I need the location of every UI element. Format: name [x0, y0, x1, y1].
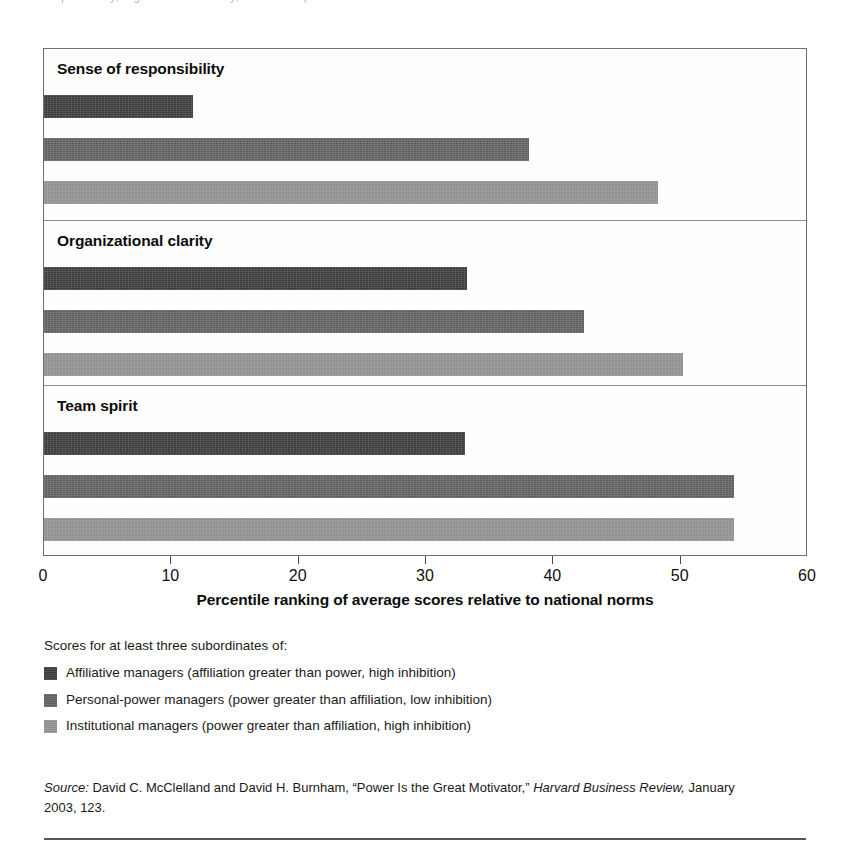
clipped-top-text-line: responsibility, organizational clarity, …: [0, 0, 849, 3]
legend-item-label: Institutional managers (power greater th…: [66, 718, 471, 734]
bottom-divider: [44, 838, 806, 840]
legend-swatch-icon: [44, 667, 57, 680]
chart-panel: Team spirit: [44, 385, 806, 556]
x-axis: 0102030405060: [43, 556, 807, 590]
x-axis-tick: [425, 556, 426, 564]
bar-institutional: [44, 353, 683, 376]
legend-item: Personal-power managers (power greater t…: [44, 692, 784, 708]
x-axis-tick-label: 50: [671, 567, 689, 585]
legend-intro: Scores for at least three subordinates o…: [44, 638, 784, 653]
x-axis-tick-label: 40: [543, 567, 561, 585]
source-publication: Harvard Business Review,: [533, 780, 685, 795]
chart-panel: Sense of responsibility: [44, 49, 806, 220]
bar-personal-power: [44, 310, 584, 333]
bar-slot: [44, 133, 806, 176]
bar-affiliative: [44, 95, 193, 118]
chart-panel: Organizational clarity: [44, 220, 806, 385]
panel-bar-group: [44, 90, 806, 219]
x-axis-tick: [680, 556, 681, 564]
bar-slot: [44, 427, 806, 470]
x-axis-tick: [552, 556, 553, 564]
x-axis-tick-label: 20: [289, 567, 307, 585]
panel-label: Team spirit: [57, 397, 137, 415]
legend-swatch-icon: [44, 694, 57, 707]
bar-institutional: [44, 518, 734, 541]
bar-slot: [44, 305, 806, 348]
panel-bar-group: [44, 427, 806, 556]
source-note: Source: David C. McClelland and David H.…: [44, 778, 744, 817]
legend-item-label: Affiliative managers (affiliation greate…: [66, 665, 456, 681]
chart-legend: Scores for at least three subordinates o…: [44, 638, 784, 745]
bar-affiliative: [44, 267, 467, 290]
panel-label: Sense of responsibility: [57, 60, 224, 78]
x-axis-tick-label: 0: [39, 567, 48, 585]
x-axis-tick: [298, 556, 299, 564]
x-axis-tick: [170, 556, 171, 564]
x-axis-title: Percentile ranking of average scores rel…: [43, 591, 807, 609]
bar-slot: [44, 262, 806, 305]
panel-label: Organizational clarity: [57, 232, 212, 250]
x-axis-tick-label: 10: [161, 567, 179, 585]
bar-personal-power: [44, 138, 529, 161]
bar-slot: [44, 176, 806, 219]
legend-item: Institutional managers (power greater th…: [44, 718, 784, 734]
bar-slot: [44, 513, 806, 556]
bar-affiliative: [44, 432, 465, 455]
bar-slot: [44, 90, 806, 133]
bar-slot: [44, 470, 806, 513]
x-axis-tick-label: 30: [416, 567, 434, 585]
clipped-top-text: responsibility, organizational clarity, …: [0, 0, 849, 3]
panel-bar-group: [44, 262, 806, 391]
bar-institutional: [44, 181, 658, 204]
legend-swatch-icon: [44, 720, 57, 733]
x-axis-tick-label: 60: [798, 567, 816, 585]
legend-item: Affiliative managers (affiliation greate…: [44, 665, 784, 681]
source-label: Source:: [44, 780, 89, 795]
source-text-before: David C. McClelland and David H. Burnham…: [89, 780, 533, 795]
chart-plot-area: Sense of responsibility Organizational c…: [43, 48, 807, 556]
legend-item-label: Personal-power managers (power greater t…: [66, 692, 492, 708]
bar-personal-power: [44, 475, 734, 498]
